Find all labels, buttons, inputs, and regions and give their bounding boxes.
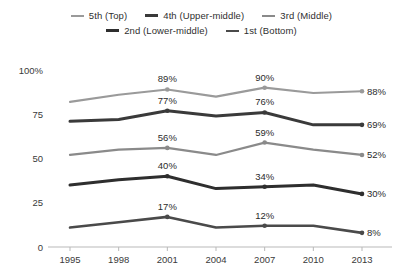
x-axis-tick-label: 2007 bbox=[254, 254, 275, 265]
data-point-label: 12% bbox=[255, 210, 275, 221]
y-axis-tick-labels: 100%7550250 bbox=[19, 65, 44, 253]
data-point-label: 88% bbox=[367, 86, 387, 97]
y-axis-tick-label: 75 bbox=[32, 109, 43, 120]
x-axis-tick-label: 1995 bbox=[59, 254, 80, 265]
data-point-marker bbox=[165, 108, 170, 113]
plot-area: 100%7550250 1995199820012004200720102013… bbox=[0, 0, 403, 279]
series-lines-group bbox=[70, 88, 362, 233]
y-axis-tick-label: 25 bbox=[32, 197, 43, 208]
y-axis-tick-label: 50 bbox=[32, 153, 43, 164]
data-point-labels-group: 89%90%88%77%76%69%56%59%52%40%34%30%17%1… bbox=[158, 72, 387, 239]
y-axis-tick-label: 0 bbox=[38, 242, 43, 253]
chart-container: 5th (Top)4th (Upper-middle)3rd (Middle) … bbox=[0, 0, 403, 279]
x-axis-tick-label: 1998 bbox=[108, 254, 129, 265]
data-point-marker bbox=[360, 123, 365, 128]
data-point-label: 34% bbox=[255, 171, 275, 182]
data-point-marker bbox=[360, 153, 365, 158]
data-point-marker bbox=[360, 192, 365, 197]
data-point-label: 69% bbox=[367, 119, 387, 130]
data-point-marker bbox=[165, 215, 170, 220]
x-axis-tick-label: 2013 bbox=[351, 254, 372, 265]
data-point-label: 77% bbox=[158, 95, 178, 106]
series-line-5th-top bbox=[70, 88, 362, 102]
series-line-3rd-middle bbox=[70, 143, 362, 155]
axis-group bbox=[48, 247, 392, 251]
data-point-label: 76% bbox=[255, 96, 275, 107]
x-axis-tick-label: 2010 bbox=[303, 254, 324, 265]
data-point-marker bbox=[165, 87, 170, 92]
data-point-label: 30% bbox=[367, 188, 387, 199]
data-point-label: 90% bbox=[255, 72, 275, 83]
data-point-label: 59% bbox=[255, 127, 275, 138]
data-point-marker bbox=[262, 185, 267, 190]
data-point-marker bbox=[262, 223, 267, 228]
data-point-label: 56% bbox=[158, 132, 178, 143]
y-axis-tick-label: 100% bbox=[19, 65, 44, 76]
series-line-2nd-lower-middle bbox=[70, 176, 362, 194]
data-point-marker bbox=[360, 231, 365, 236]
data-point-marker bbox=[262, 110, 267, 115]
data-point-label: 40% bbox=[158, 160, 178, 171]
series-line-1st-bottom bbox=[70, 217, 362, 233]
data-point-marker bbox=[165, 174, 170, 179]
line-chart-svg: 100%7550250 1995199820012004200720102013… bbox=[0, 0, 403, 279]
x-axis-tick-labels: 1995199820012004200720102013 bbox=[59, 254, 372, 265]
data-point-label: 89% bbox=[158, 73, 178, 84]
data-point-marker bbox=[262, 140, 267, 145]
data-point-label: 8% bbox=[367, 227, 381, 238]
data-point-marker bbox=[360, 89, 365, 94]
x-axis-tick-label: 2001 bbox=[157, 254, 178, 265]
series-line-4th-upper-middle bbox=[70, 111, 362, 125]
data-point-label: 17% bbox=[158, 201, 178, 212]
data-point-marker bbox=[165, 146, 170, 151]
data-point-marker bbox=[262, 85, 267, 90]
data-point-label: 52% bbox=[367, 149, 387, 160]
x-axis-tick-label: 2004 bbox=[205, 254, 226, 265]
